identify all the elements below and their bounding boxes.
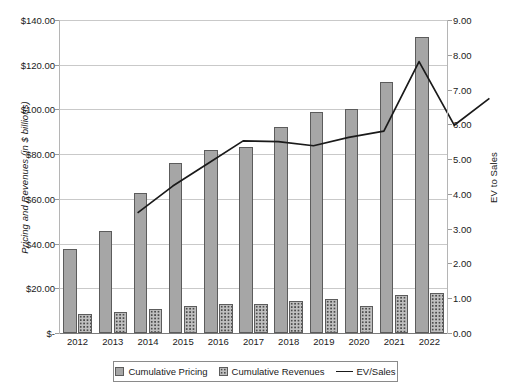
x-axis-label: 2015 (173, 336, 194, 347)
y-axis-right-tick-mark (448, 124, 452, 125)
gridline (60, 20, 447, 21)
y-axis-left-tick-mark (55, 199, 59, 200)
legend-item-ev-sales: EV/Sales (336, 366, 396, 377)
y-axis-right-tick-mark (448, 333, 452, 334)
y-axis-left-tick-mark (55, 109, 59, 110)
y-axis-left-tick-label: $100.00 (0, 104, 55, 115)
legend-swatch-line (336, 371, 353, 372)
x-axis-label: 2017 (243, 336, 264, 347)
y-axis-left-tick-label: $20.00 (0, 283, 55, 294)
y-axis-left-tick-label: $120.00 (0, 59, 55, 70)
x-axis-label: 2014 (137, 336, 158, 347)
bar-cumulative-revenues (78, 314, 92, 333)
legend-swatch-revenues (219, 367, 228, 376)
legend-label-ev-sales: EV/Sales (357, 366, 396, 377)
x-axis-label: 2013 (102, 336, 123, 347)
legend-item-cumulative-revenues: Cumulative Revenues (219, 366, 325, 377)
ev-sales-line (138, 62, 490, 213)
legend-swatch-pricing (115, 367, 124, 376)
x-axis-label: 2022 (419, 336, 440, 347)
y-axis-right-line (447, 20, 448, 334)
y-axis-left-tick-label: $60.00 (0, 193, 55, 204)
y-axis-right-tick-label: 2.00 (453, 258, 503, 269)
y-axis-right-tick-label: 9.00 (453, 15, 503, 26)
y-axis-right-tick-mark (448, 55, 452, 56)
x-axis-label: 2020 (348, 336, 369, 347)
x-axis-label: 2016 (208, 336, 229, 347)
y-axis-right-tick-mark (448, 298, 452, 299)
bar-cumulative-pricing (63, 249, 77, 333)
legend-label-revenues: Cumulative Revenues (232, 366, 325, 377)
y-axis-left-tick-mark (55, 333, 59, 334)
y-axis-right-tick-label: 8.00 (453, 49, 503, 60)
legend-item-cumulative-pricing: Cumulative Pricing (115, 366, 207, 377)
y-axis-left-tick-label: $40.00 (0, 238, 55, 249)
y-axis-left-tick-label: $80.00 (0, 149, 55, 160)
y-axis-right-tick-mark (448, 90, 452, 91)
y-axis-right-tick-label: 0.00 (453, 328, 503, 339)
y-axis-right-tick-mark (448, 159, 452, 160)
y-axis-right-tick-label: 1.00 (453, 293, 503, 304)
ev-sales-line-layer (120, 40, 507, 353)
y-axis-right-tick-mark (448, 263, 452, 264)
y-axis-left-title: Pricing and Revenues (in $ billions) (19, 68, 30, 288)
y-axis-right-tick-label: 5.00 (453, 154, 503, 165)
x-axis-label: 2019 (313, 336, 334, 347)
y-axis-left-tick-mark (55, 288, 59, 289)
x-axis-label: 2021 (384, 336, 405, 347)
y-axis-right-tick-mark (448, 20, 452, 21)
plot-area (60, 20, 447, 333)
y-axis-right-tick-mark (448, 194, 452, 195)
y-axis-left-tick-mark (55, 154, 59, 155)
y-axis-right-tick-label: 7.00 (453, 84, 503, 95)
y-axis-left-tick-label: $140.00 (0, 15, 55, 26)
x-axis-label: 2012 (67, 336, 88, 347)
y-axis-right-tick-label: 6.00 (453, 119, 503, 130)
y-axis-left-tick-mark (55, 20, 59, 21)
legend-label-pricing: Cumulative Pricing (128, 366, 207, 377)
y-axis-left-tick-mark (55, 244, 59, 245)
x-axis-line (60, 333, 447, 334)
chart-container: Pricing and Revenues (in $ billions) EV … (0, 0, 507, 387)
y-axis-right-tick-mark (448, 229, 452, 230)
y-axis-left-tick-mark (55, 65, 59, 66)
bar-cumulative-pricing (99, 231, 113, 333)
y-axis-left-tick-label: $- (0, 328, 55, 339)
y-axis-right-tick-label: 3.00 (453, 223, 503, 234)
y-axis-right-tick-label: 4.00 (453, 188, 503, 199)
y-axis-left-line (59, 20, 60, 334)
chart-legend: Cumulative Pricing Cumulative Revenues E… (113, 361, 398, 382)
x-axis-label: 2018 (278, 336, 299, 347)
